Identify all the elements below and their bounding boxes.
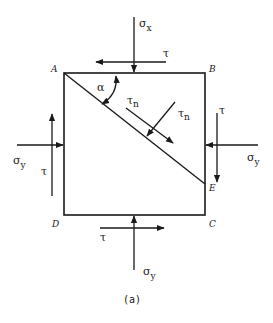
element-square: [64, 73, 205, 215]
corner-label-b: B: [208, 64, 216, 74]
right-shear-stress-label: τ: [219, 104, 225, 117]
inclined-plane-ae: [64, 73, 205, 184]
stress-element-diagram: A B C D E α σx τ σy τ σy τ σy τ τn τn (a…: [0, 0, 273, 323]
inclined-shear-arrow-toward: [147, 102, 175, 136]
alpha-label: α: [97, 81, 105, 94]
corner-label-a: A: [50, 64, 58, 74]
figure-caption: (a): [123, 294, 141, 305]
bottom-normal-stress-label: σy: [143, 265, 157, 281]
top-normal-stress-label: σx: [139, 17, 152, 33]
left-shear-stress-label: τ: [41, 165, 47, 178]
corner-label-d: D: [51, 219, 59, 229]
right-normal-stress-label: σy: [247, 151, 261, 167]
top-shear-stress-label: τ: [163, 47, 169, 60]
corner-label-e: E: [208, 183, 216, 193]
corner-label-c: C: [209, 219, 216, 229]
inclined-shear-label-along: τn: [127, 94, 139, 109]
left-normal-stress-label: σy: [13, 154, 27, 170]
inclined-shear-label-toward: τn: [178, 107, 190, 122]
bottom-shear-stress-label: τ: [100, 231, 106, 244]
